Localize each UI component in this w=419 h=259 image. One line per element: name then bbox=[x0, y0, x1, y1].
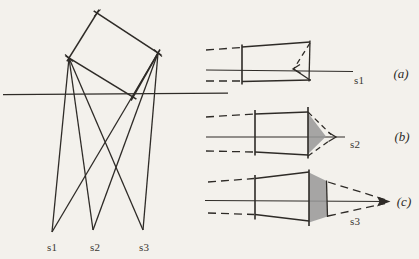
panel-a-left-arrowhead-icon bbox=[293, 65, 301, 74]
panel-c-top-edge bbox=[255, 172, 309, 179]
source-label-s1: s1 bbox=[47, 241, 57, 253]
panel-c-letter: (c) bbox=[397, 194, 411, 209]
source-label-s3: s3 bbox=[139, 241, 149, 253]
panel-a-top-edge bbox=[242, 42, 310, 47]
reflector-diagram: s1 s2 s3 bbox=[3, 10, 228, 254]
ray-right-to-s2 bbox=[93, 53, 158, 230]
panel-a-source-label: s1 bbox=[354, 74, 364, 86]
ray-left-to-s2 bbox=[69, 58, 93, 230]
pulse-panel-b: s2 (b) bbox=[206, 107, 410, 159]
panel-a-bottom-edge bbox=[242, 80, 311, 82]
panel-a-chevron-dashed bbox=[294, 43, 310, 69]
surface-line bbox=[3, 93, 228, 94]
panel-c-dashed-top-left bbox=[208, 179, 254, 183]
panel-b-bottom-edge bbox=[255, 152, 308, 155]
panel-c-focus-shade bbox=[309, 173, 328, 223]
source-label-s2: s2 bbox=[90, 241, 100, 253]
panel-b-letter: (b) bbox=[394, 129, 409, 144]
ray-right-to-s3 bbox=[143, 53, 158, 230]
panel-b-dashed-bottom-left bbox=[206, 151, 254, 152]
figure-page: s1 s2 s3 s1 (a) bbox=[0, 0, 419, 259]
panel-b-source-label: s2 bbox=[350, 138, 360, 150]
pulse-panel-a: s1 (a) bbox=[206, 41, 409, 87]
panel-b-focus-shade bbox=[308, 113, 326, 154]
panel-a-axis-line bbox=[206, 70, 353, 72]
panel-c-dashed-converge-top bbox=[328, 182, 385, 200]
ray-fan-left-corner bbox=[52, 58, 143, 232]
pulse-panel-c: s3 (c) bbox=[205, 170, 411, 228]
panel-a-right-bar bbox=[309, 41, 310, 82]
panel-c-source-label: s3 bbox=[350, 215, 360, 227]
rectangle-edge-top bbox=[94, 11, 162, 55]
ray-left-to-s3 bbox=[69, 58, 143, 230]
reflector-rectangle bbox=[65, 10, 162, 101]
panel-c-bottom-edge bbox=[255, 215, 309, 222]
panel-c-dashed-bottom-left bbox=[208, 213, 254, 215]
rectangle-edge-bottom bbox=[66, 56, 137, 99]
rectangle-edge-left bbox=[67, 10, 99, 62]
panel-c-axis-line bbox=[205, 201, 388, 202]
panel-a-letter: (a) bbox=[393, 66, 408, 81]
panel-a-dashed-top-left bbox=[206, 48, 241, 51]
figure-svg: s1 s2 s3 s1 (a) bbox=[0, 0, 419, 259]
ray-left-to-s1 bbox=[52, 58, 69, 232]
panel-b-top-edge bbox=[255, 112, 308, 114]
panel-b-dashed-top-left bbox=[206, 114, 254, 117]
